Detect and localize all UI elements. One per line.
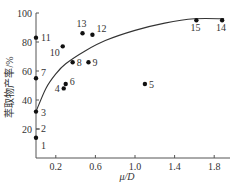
data-point [143, 82, 147, 86]
data-point [34, 109, 38, 113]
x-tick-label: 0.2 [50, 161, 63, 172]
y-axis-title: 萃取物产率/% [3, 56, 15, 117]
scatter-chart: 204060801000.20.61.01.41.8 1234567891011… [0, 0, 237, 187]
y-tick-label: 40 [22, 95, 32, 106]
point-label: 14 [216, 22, 226, 33]
x-tick-label: 1.4 [168, 161, 181, 172]
data-point [34, 136, 38, 140]
point-label: 4 [55, 83, 60, 94]
point-label: 6 [70, 76, 75, 87]
point-label: 15 [190, 22, 200, 33]
data-point [34, 35, 38, 39]
point-label: 8 [77, 57, 82, 68]
data-point [70, 60, 74, 64]
point-label: 13 [77, 18, 87, 29]
point-label: 3 [41, 107, 46, 118]
point-label: 7 [41, 67, 46, 78]
data-point [86, 60, 90, 64]
data-point [34, 76, 38, 80]
data-point [80, 31, 84, 35]
data-point [90, 33, 94, 37]
data-points: 123456789101112131415 [34, 18, 226, 151]
point-label: 5 [149, 79, 154, 90]
y-tick-label: 20 [22, 124, 32, 135]
data-point [63, 82, 67, 86]
point-label: 2 [41, 123, 46, 134]
point-label: 11 [41, 32, 51, 43]
data-point [61, 44, 65, 48]
point-label: 9 [92, 57, 97, 68]
point-label: 1 [41, 140, 46, 151]
point-label: 12 [96, 23, 106, 34]
x-axis-title: μ/D [118, 171, 135, 182]
data-point [62, 86, 66, 90]
y-tick-label: 100 [17, 8, 32, 19]
y-tick-label: 60 [22, 66, 32, 77]
x-tick-label: 0.6 [89, 161, 102, 172]
y-tick-label: 80 [22, 37, 32, 48]
x-tick-label: 1.8 [208, 161, 221, 172]
point-label: 10 [50, 47, 60, 58]
